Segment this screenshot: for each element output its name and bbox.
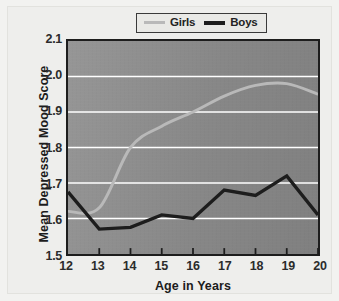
x-axis-tick-labels: 121314151617181920 [66,259,320,277]
chart-lines [68,41,318,254]
legend-line-swatch [144,21,165,24]
chart-figure: Mean Depressed Mood Score 1.51.61.71.81.… [0,0,339,301]
chart-legend: GirlsBoys [136,13,267,33]
y-tick-label: 1.6 [32,213,62,227]
x-tick-label: 12 [51,259,81,273]
legend-label: Girls [170,17,195,29]
x-tick-label: 16 [178,259,208,273]
y-tick-label: 2.1 [32,32,62,46]
x-tick-label: 19 [273,259,303,273]
x-tick-label: 17 [210,259,240,273]
plot-area [66,39,320,256]
series-line-boys [68,176,318,229]
x-tick-label: 13 [83,259,113,273]
y-tick-label: 1.9 [32,104,62,118]
x-tick-label: 15 [146,259,176,273]
y-tick-label: 1.8 [32,141,62,155]
legend-entry-boys: Boys [204,17,257,29]
y-tick-label: 2.0 [32,68,62,82]
x-tick-label: 20 [305,259,335,273]
figure-inner-frame: Mean Depressed Mood Score 1.51.61.71.81.… [7,6,332,294]
x-axis-title: Age in Years [66,279,320,293]
x-tick-label: 18 [242,259,272,273]
legend-entry-girls: Girls [144,17,195,29]
y-axis-tick-labels: 1.51.61.71.81.92.02.1 [26,39,62,256]
x-tick-label: 14 [115,259,145,273]
legend-line-swatch [204,21,225,25]
y-tick-label: 1.7 [32,177,62,191]
plot-inner [68,41,318,254]
legend-label: Boys [230,17,257,29]
